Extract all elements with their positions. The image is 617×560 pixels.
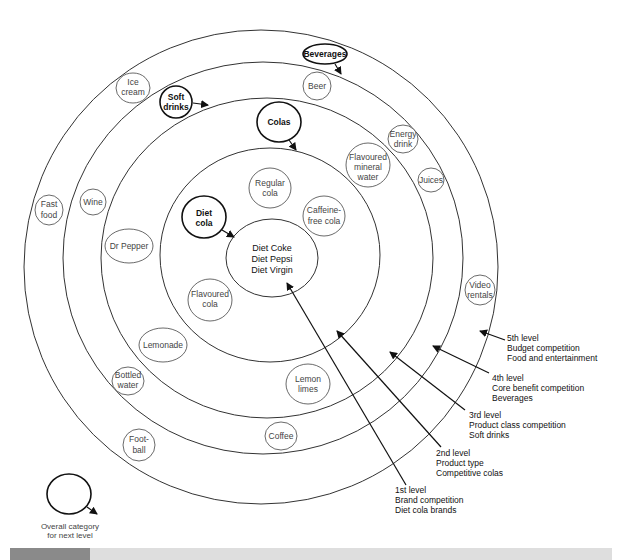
item-flavoured-cola: Flavoured cola: [188, 279, 232, 321]
item-lemon-limes: Lemon limes: [286, 364, 330, 404]
svg-text:Competitive colas: Competitive colas: [436, 468, 503, 478]
svg-text:Beverages: Beverages: [303, 49, 346, 59]
svg-text:mineral: mineral: [354, 162, 382, 172]
svg-text:Colas: Colas: [267, 117, 290, 127]
item-regular-cola: Regular cola: [249, 168, 291, 208]
svg-text:Wine: Wine: [83, 197, 103, 207]
category-diet-cola: Diet cola: [182, 196, 234, 238]
center-line-3: Diet Virgin: [251, 265, 292, 275]
svg-text:Budget competition: Budget competition: [507, 343, 580, 353]
svg-text:Flavoured: Flavoured: [191, 289, 229, 299]
svg-text:Food and entertainment: Food and entertainment: [507, 353, 598, 363]
arrow-icon: [335, 64, 341, 74]
item-video-rentals: Video rentals: [465, 275, 495, 305]
svg-text:4th level: 4th level: [492, 373, 524, 383]
item-football: Foot- ball: [123, 429, 155, 461]
svg-text:free cola: free cola: [308, 216, 341, 226]
svg-text:Lemonade: Lemonade: [143, 340, 183, 350]
category-colas: Colas: [257, 102, 301, 150]
svg-text:Flavoured: Flavoured: [349, 152, 387, 162]
competition-levels-diagram: Diet Coke Diet Pepsi Diet Virgin Diet co…: [0, 0, 617, 560]
item-flavoured-mineral-water: Flavoured mineral water: [346, 143, 390, 187]
arrow-icon: [289, 140, 296, 150]
svg-text:Diet: Diet: [196, 208, 212, 218]
item-dr-pepper: Dr Pepper: [105, 229, 153, 263]
arrow-icon: [193, 103, 208, 105]
footer-bar-accent: [10, 548, 90, 560]
arrow-level-4: [433, 346, 489, 373]
arrow-level-3: [390, 352, 465, 410]
item-caffeine-free-cola: Caffeine- free cola: [303, 196, 345, 236]
category-soft-drinks: Soft drinks: [160, 86, 208, 118]
label-level-5: 5th level Budget competition Food and en…: [507, 333, 598, 363]
svg-text:cola: cola: [202, 299, 218, 309]
legend: Overall category for next level: [41, 474, 99, 540]
svg-text:2nd level: 2nd level: [436, 448, 470, 458]
svg-text:Beer: Beer: [308, 81, 326, 91]
arrow-level-2: [337, 331, 441, 447]
svg-text:Regular: Regular: [255, 178, 285, 188]
center-line-2: Diet Pepsi: [251, 254, 292, 264]
arrow-icon: [87, 507, 97, 514]
svg-text:Fast: Fast: [41, 199, 58, 209]
svg-text:5th level: 5th level: [507, 333, 539, 343]
svg-text:Product type: Product type: [436, 458, 484, 468]
arrow-level-5: [480, 331, 505, 340]
svg-text:food: food: [41, 210, 58, 220]
svg-text:ball: ball: [132, 445, 145, 455]
footer-bar: [90, 548, 612, 560]
svg-text:cola: cola: [195, 218, 212, 228]
svg-text:Product class competition: Product class competition: [469, 420, 566, 430]
svg-text:water: water: [117, 380, 139, 390]
legend-circle-icon: [47, 474, 91, 514]
svg-text:Bottled: Bottled: [115, 370, 142, 380]
svg-text:cola: cola: [262, 188, 278, 198]
svg-text:1st level: 1st level: [395, 485, 426, 495]
item-beer: Beer: [303, 72, 331, 100]
svg-text:water: water: [357, 172, 379, 182]
item-wine: Wine: [80, 189, 106, 215]
item-lemonade: Lemonade: [139, 328, 187, 362]
svg-text:Overall category: Overall category: [41, 522, 99, 531]
svg-text:drinks: drinks: [163, 102, 189, 112]
svg-text:Lemon: Lemon: [295, 374, 321, 384]
label-level-2: 2nd level Product type Competitive colas: [436, 448, 503, 478]
arrow-icon: [222, 230, 234, 237]
label-level-3: 3rd level Product class competition Soft…: [469, 410, 566, 440]
svg-text:Ice: Ice: [127, 77, 139, 87]
svg-text:cream: cream: [121, 87, 145, 97]
item-energy-drink: Energy drink: [388, 125, 418, 153]
svg-text:Coffee: Coffee: [269, 431, 294, 441]
svg-text:Diet cola brands: Diet cola brands: [395, 505, 456, 515]
svg-text:limes: limes: [298, 384, 318, 394]
svg-text:Caffeine-: Caffeine-: [307, 205, 342, 215]
svg-text:Soft: Soft: [168, 92, 185, 102]
svg-text:for next level: for next level: [47, 531, 93, 540]
center-brands-circle: Diet Coke Diet Pepsi Diet Virgin: [226, 219, 318, 297]
svg-text:Beverages: Beverages: [492, 393, 533, 403]
svg-text:Video: Video: [469, 280, 491, 290]
svg-text:drink: drink: [394, 139, 413, 149]
item-ice-cream: Ice cream: [116, 73, 150, 103]
svg-text:rentals: rentals: [467, 290, 493, 300]
center-line-1: Diet Coke: [252, 243, 292, 253]
label-level-1: 1st level Brand competition Diet cola br…: [395, 485, 464, 515]
svg-text:Energy: Energy: [390, 129, 418, 139]
svg-text:Brand competition: Brand competition: [395, 495, 464, 505]
svg-text:Soft drinks: Soft drinks: [469, 430, 509, 440]
item-bottled-water: Bottled water: [112, 367, 144, 395]
item-fast-food: Fast food: [35, 195, 63, 225]
svg-text:Dr Pepper: Dr Pepper: [110, 241, 149, 251]
category-beverages: Beverages: [303, 44, 347, 74]
svg-text:Juices: Juices: [419, 175, 443, 185]
svg-text:Core benefit competition: Core benefit competition: [492, 383, 584, 393]
item-juices: Juices: [418, 168, 444, 192]
label-level-4: 4th level Core benefit competition Bever…: [492, 373, 584, 403]
svg-text:Foot-: Foot-: [129, 434, 149, 444]
svg-text:3rd level: 3rd level: [469, 410, 501, 420]
item-coffee: Coffee: [265, 422, 297, 450]
